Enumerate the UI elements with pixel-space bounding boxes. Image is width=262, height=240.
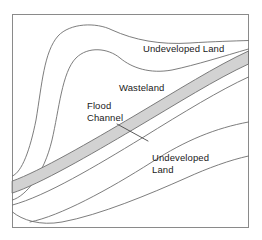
label-wasteland: Wasteland (119, 82, 164, 94)
label-undeveloped-land-upper: Undeveloped Land (143, 43, 224, 55)
map-canvas (0, 0, 262, 240)
label-undeveloped-land-lower: Undeveloped Land (152, 152, 209, 175)
label-flood-channel: Flood Channel (87, 100, 123, 123)
flood-channel-diagram: Undeveloped Land Wasteland Flood Channel… (0, 0, 262, 240)
